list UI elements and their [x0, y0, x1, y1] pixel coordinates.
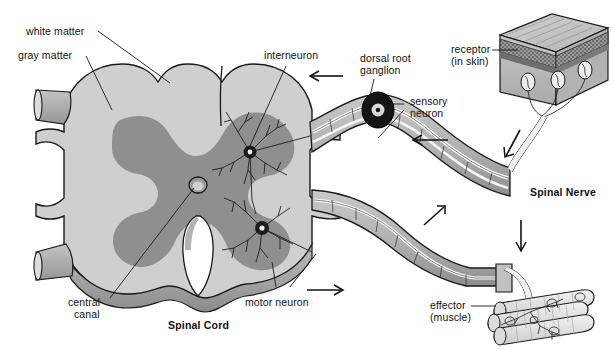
central-canal-lumen [193, 182, 204, 191]
label-gray-matter: gray matter [18, 49, 72, 62]
sensory-nerve-bundle-fill [508, 116, 547, 172]
motor-neuron-nucleus [259, 225, 264, 230]
title-spinal-cord: Spinal Cord [168, 319, 229, 332]
label-receptor-line2: (in skin) [451, 55, 489, 68]
ventral-root-stub-left-face [34, 252, 42, 280]
label-dorsal-root-ganglion-line2: ganglion [360, 64, 401, 77]
label-dorsal-root-ganglion-line1: dorsal root [360, 52, 411, 65]
title-spinal-nerve: Spinal Nerve [530, 186, 596, 199]
label-receptor-line1: receptor [451, 43, 490, 56]
label-white-matter: white matter [26, 25, 84, 38]
dorsal-root-stub-left-face [34, 90, 42, 120]
ganglion-cell-nucleus [376, 108, 381, 113]
label-effector-line1: effector [430, 299, 466, 312]
interneuron-nucleus [248, 150, 253, 155]
ventral-root-tract [312, 190, 512, 292]
skin-receptor-block [500, 14, 608, 172]
label-interneuron: interneuron [264, 49, 318, 62]
diagram-canvas: white matter gray matter interneuron dor… [0, 0, 614, 350]
label-motor-neuron: motor neuron [245, 296, 309, 309]
arrow-ventral-outbound [307, 285, 343, 295]
label-central-canal-line1: central [68, 296, 100, 309]
arrow-dorsal-inbound-right [310, 71, 343, 81]
label-effector-line2: (muscle) [430, 311, 471, 324]
arrow-effector-down [516, 220, 526, 251]
label-sensory-neuron-line2: neuron [410, 107, 443, 120]
label-sensory-neuron-line1: sensory [410, 95, 447, 108]
label-central-canal-line2: canal [74, 308, 100, 321]
spinal-cord-cross-section [34, 64, 340, 312]
arrow-ventral-upright [424, 206, 445, 225]
